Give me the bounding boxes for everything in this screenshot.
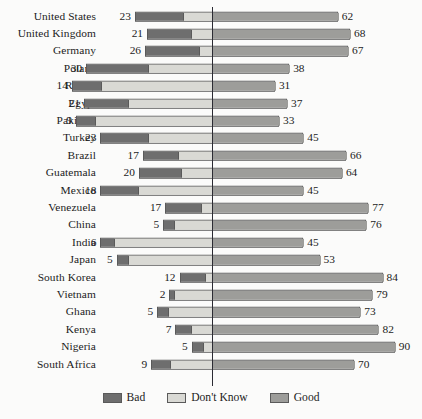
zero-axis-line xyxy=(212,7,213,386)
chart-row: Russia1431 xyxy=(0,78,422,95)
bar-segment-good xyxy=(213,343,396,352)
stacked-bar xyxy=(175,325,378,336)
bad-value-label: 5 xyxy=(107,255,113,266)
good-value-label: 45 xyxy=(307,237,318,248)
good-value-label: 70 xyxy=(358,359,369,370)
bar-segment-good xyxy=(213,65,290,74)
bad-value-label: 21 xyxy=(132,28,143,39)
bad-value-label: 18 xyxy=(85,185,96,196)
good-value-label: 90 xyxy=(399,342,410,353)
good-value-label: 33 xyxy=(283,115,294,126)
category-label: United States xyxy=(34,11,96,22)
bar-segment-dont-know xyxy=(178,152,213,161)
chart-row: South Africa970 xyxy=(0,356,422,373)
stacked-bar xyxy=(165,203,368,214)
bar-segment-good xyxy=(213,186,304,195)
bad-value-label: 2 xyxy=(160,289,166,300)
chart-row: Pakistan933 xyxy=(0,112,422,129)
bar-segment-bad xyxy=(152,360,170,369)
chart-row: South Korea1284 xyxy=(0,269,422,286)
stacked-bar xyxy=(76,116,279,127)
chart-row: India645 xyxy=(0,234,422,251)
bar-segment-dont-know xyxy=(95,117,213,126)
chart-row: United Kingdom2168 xyxy=(0,25,422,42)
bad-value-label: 30 xyxy=(71,63,82,74)
legend-swatch-icon xyxy=(103,393,122,403)
stacked-bar xyxy=(84,98,287,109)
bad-value-label: 5 xyxy=(182,342,188,353)
chart-row: Nigeria590 xyxy=(0,339,422,356)
legend-label: Bad xyxy=(127,392,146,404)
stacked-bar xyxy=(143,151,346,162)
legend-swatch-icon xyxy=(167,393,186,403)
bar-segment-good xyxy=(213,273,384,282)
bar-segment-dont-know xyxy=(101,82,213,91)
bar-segment-dont-know xyxy=(148,134,213,143)
legend-item: Bad xyxy=(103,392,146,404)
bar-segment-dont-know xyxy=(128,99,213,108)
stacked-bar xyxy=(86,64,289,75)
bar-segment-bad xyxy=(101,239,113,248)
bad-value-label: 6 xyxy=(91,237,97,248)
bad-value-label: 20 xyxy=(124,168,135,179)
bar-segment-bad xyxy=(87,65,148,74)
category-label: Nigeria xyxy=(61,342,96,353)
chart-row: Brazil1766 xyxy=(0,147,422,164)
category-label: Vietnam xyxy=(57,289,96,300)
good-value-label: 68 xyxy=(354,28,365,39)
chart-legend: BadDon't KnowGood xyxy=(0,392,422,404)
bar-segment-bad xyxy=(176,326,190,335)
chart-plot-area: United States2362United Kingdom2168Germa… xyxy=(0,0,422,388)
bar-segment-bad xyxy=(73,82,101,91)
category-label: Ghana xyxy=(66,307,96,318)
bar-segment-dont-know xyxy=(170,360,213,369)
stacked-bar xyxy=(145,46,348,57)
chart-row: China576 xyxy=(0,217,422,234)
bar-segment-dont-know xyxy=(114,239,213,248)
category-label: Venezuela xyxy=(48,202,96,213)
good-value-label: 77 xyxy=(372,202,383,213)
diverging-stacked-bar-chart: United States2362United Kingdom2168Germa… xyxy=(0,0,422,419)
legend-item: Good xyxy=(270,392,320,404)
bar-segment-bad xyxy=(193,343,203,352)
stacked-bar xyxy=(151,359,354,370)
legend-item: Don't Know xyxy=(167,392,248,404)
bar-segment-bad xyxy=(144,152,179,161)
bar-segment-bad xyxy=(146,47,199,56)
bar-segment-good xyxy=(213,291,373,300)
chart-row: Turkey2345 xyxy=(0,130,422,147)
chart-row: Guatemala2064 xyxy=(0,165,422,182)
bar-segment-good xyxy=(213,99,288,108)
bar-segment-dont-know xyxy=(168,308,213,317)
bar-segment-good xyxy=(213,47,349,56)
bar-segment-bad xyxy=(85,99,128,108)
chart-row: Egypt2137 xyxy=(0,95,422,112)
good-value-label: 79 xyxy=(376,289,387,300)
bar-segment-good xyxy=(213,117,280,126)
stacked-bar xyxy=(192,342,395,353)
bar-segment-bad xyxy=(101,134,148,143)
good-value-label: 64 xyxy=(346,168,357,179)
chart-row: Japan553 xyxy=(0,252,422,269)
bad-value-label: 21 xyxy=(69,98,80,109)
stacked-bar xyxy=(72,81,275,92)
stacked-bar xyxy=(100,238,303,249)
good-value-label: 73 xyxy=(364,307,375,318)
good-value-label: 84 xyxy=(387,272,398,283)
bar-segment-dont-know xyxy=(183,12,213,21)
bar-segment-dont-know xyxy=(148,65,213,74)
good-value-label: 31 xyxy=(279,81,290,92)
bar-segment-dont-know xyxy=(174,221,213,230)
bar-segment-good xyxy=(213,239,304,248)
category-label: Japan xyxy=(70,255,96,266)
bar-segment-good xyxy=(213,30,351,39)
stacked-bar xyxy=(147,29,350,40)
bar-segment-dont-know xyxy=(181,169,213,178)
good-value-label: 82 xyxy=(382,324,393,335)
bad-value-label: 9 xyxy=(141,359,147,370)
chart-row: Vietnam279 xyxy=(0,286,422,303)
bar-segment-dont-know xyxy=(191,30,213,39)
category-label: South Korea xyxy=(38,272,96,283)
bar-segment-bad xyxy=(77,117,95,126)
stacked-bar xyxy=(157,307,360,318)
